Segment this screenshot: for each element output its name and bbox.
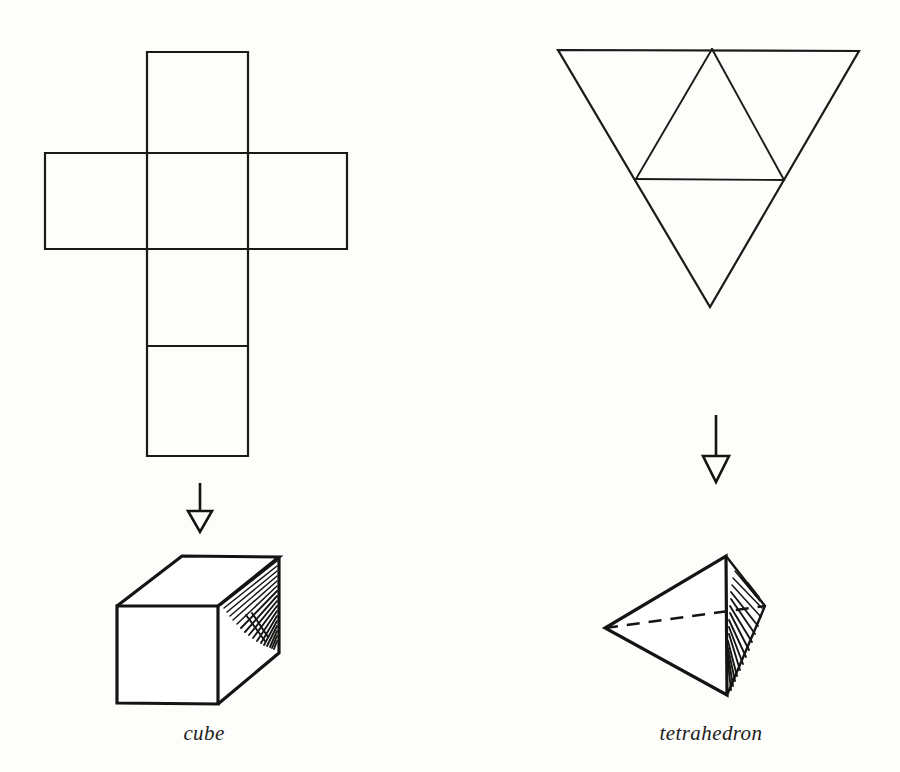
cube-down-arrow bbox=[188, 483, 212, 532]
figure-canvas: cube bbox=[0, 0, 900, 772]
cube-net-column-outline bbox=[147, 52, 248, 456]
tetrahedron-net bbox=[558, 49, 859, 307]
tetrahedron-caption: tetrahedron bbox=[660, 721, 763, 745]
tetrahedron-net-fold-1 bbox=[636, 179, 784, 180]
arrow-head-icon bbox=[188, 511, 212, 532]
cube-net bbox=[45, 52, 347, 456]
figure-container: cube bbox=[0, 0, 900, 772]
tetrahedron-net-fold-2 bbox=[636, 49, 712, 179]
cube-caption: cube bbox=[183, 721, 224, 745]
tetrahedron-net-outline bbox=[558, 50, 859, 307]
tetrahedron-panel: tetrahedron bbox=[558, 49, 859, 745]
cube-front-face bbox=[117, 606, 218, 704]
tetrahedron-front-face bbox=[605, 556, 727, 695]
tetrahedron-net-fold-3 bbox=[712, 49, 784, 180]
arrow-head-icon bbox=[703, 456, 729, 482]
tetrahedron-solid bbox=[605, 556, 765, 695]
cube-net-band-outline bbox=[45, 153, 347, 249]
cube-panel: cube bbox=[45, 52, 347, 745]
tetrahedron-down-arrow bbox=[703, 415, 729, 482]
cube-solid bbox=[117, 556, 279, 704]
